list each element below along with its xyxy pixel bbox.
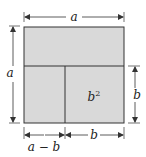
difference-of-squares-diagram: a a b b2 b a − b (0, 0, 146, 157)
right-height-label: b (133, 88, 141, 102)
bottom-left-label: a − b (28, 140, 61, 154)
bottom-right-label: b (90, 128, 98, 142)
outer-square (24, 27, 124, 123)
top-width-label: a (70, 10, 77, 24)
left-height-label: a (6, 66, 13, 80)
